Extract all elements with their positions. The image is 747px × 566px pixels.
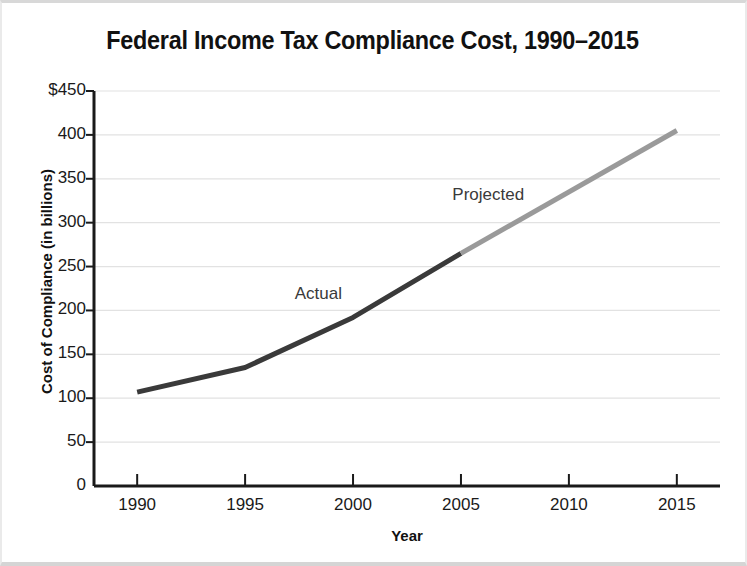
x-tick-label: 1990 [102, 495, 172, 515]
annotation-projected: Projected [452, 185, 524, 205]
y-tick-label: 250 [24, 256, 86, 276]
data-series [137, 131, 677, 393]
y-tick-label: 300 [24, 212, 86, 232]
y-tick-label: 350 [24, 168, 86, 188]
y-tick-label: 0 [24, 475, 86, 495]
x-tick-label: 2000 [318, 495, 388, 515]
y-tick-label: 200 [24, 299, 86, 319]
y-tick-label: 50 [24, 431, 86, 451]
x-tick-label: 2005 [426, 495, 496, 515]
y-tick-label: 400 [24, 124, 86, 144]
plot-area [2, 3, 747, 566]
annotation-actual: Actual [295, 284, 342, 304]
y-tick-label: $450 [24, 80, 86, 100]
gridlines [94, 91, 720, 442]
y-tick-label: 150 [24, 343, 86, 363]
y-tick-label: 100 [24, 387, 86, 407]
x-tick-label: 2010 [534, 495, 604, 515]
x-tick-label: 2015 [642, 495, 712, 515]
series-line-actual [137, 253, 461, 392]
chart-page: Federal Income Tax Compliance Cost, 1990… [0, 0, 747, 566]
x-tick-label: 1995 [210, 495, 280, 515]
